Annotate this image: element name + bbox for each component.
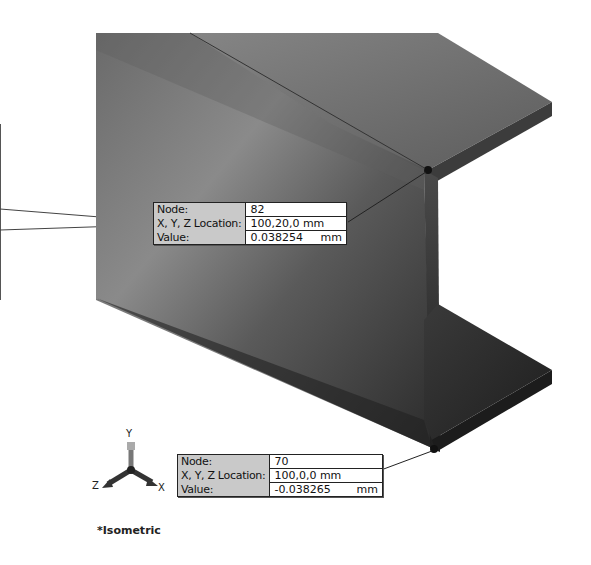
probe-node-value: 82 — [245, 203, 346, 217]
location-value-text: 100,20,0 mm — [250, 217, 324, 230]
probe-location-value: 100,20,0 mm — [245, 217, 346, 231]
probe-location-value: 100,0,0 mm — [269, 469, 382, 483]
z-axis-icon — [108, 470, 131, 484]
probe-label-node-82[interactable]: Node: 82 X, Y, Z Location: 100,20,0 mm V… — [153, 202, 347, 245]
value-unit: mm — [357, 483, 378, 496]
triad-axes-icon — [86, 432, 176, 512]
triad-label-z: Z — [92, 480, 99, 491]
node-value-text: 82 — [250, 203, 264, 216]
probe-location-label: X, Y, Z Location: — [154, 217, 245, 231]
value-text: 0.038254 — [250, 231, 303, 244]
triad-label-y: Y — [126, 428, 132, 439]
location-value-text: 100,0,0 mm — [274, 469, 341, 482]
triad-label-x: X — [158, 482, 165, 493]
probe-value-value: 0.038254mm — [245, 231, 346, 244]
probe-location-label: X, Y, Z Location: — [178, 469, 269, 483]
view-name-label: *Isometric — [97, 524, 161, 537]
probe-label-node-70[interactable]: Node: 70 X, Y, Z Location: 100,0,0 mm Va… — [177, 454, 383, 497]
value-unit: mm — [321, 231, 342, 244]
triad-origin-icon — [127, 466, 135, 474]
y-axis-arrow-icon — [127, 442, 135, 450]
probe-value-label: Value: — [178, 483, 269, 496]
node-value-text: 70 — [274, 455, 288, 468]
probe-value-value: -0.038265mm — [269, 483, 382, 496]
probe-value-label: Value: — [154, 231, 245, 244]
coordinate-triad[interactable]: Y Z X — [86, 432, 176, 512]
3d-viewport[interactable]: Node: 82 X, Y, Z Location: 100,20,0 mm V… — [0, 0, 591, 565]
probe-node-value: 70 — [269, 455, 382, 469]
probe-node-label: Node: — [154, 203, 245, 217]
probe-leader-lower — [381, 451, 432, 470]
value-text: -0.038265 — [274, 483, 330, 496]
probe-node-label: Node: — [178, 455, 269, 469]
